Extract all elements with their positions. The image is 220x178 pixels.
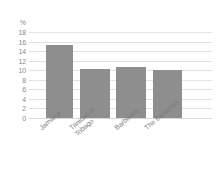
bar-jamaica[interactable] (46, 45, 73, 118)
plot-area (0, 0, 220, 178)
bar-chart: % 18 16 14 12 10 8 6 4 2 0 Jamaica Trini… (0, 0, 220, 178)
